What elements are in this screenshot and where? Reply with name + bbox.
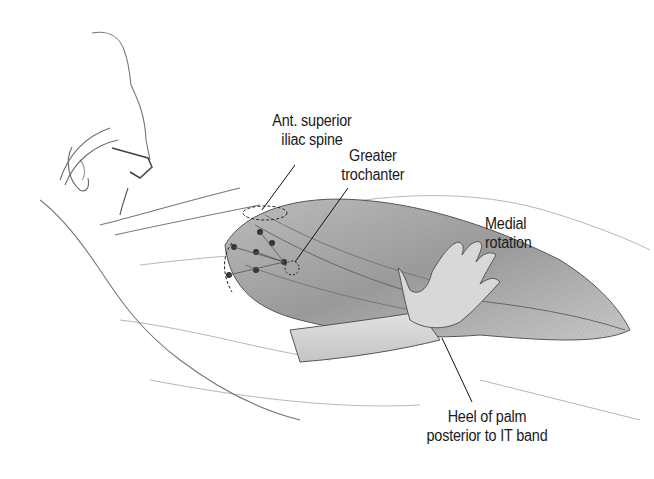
heel-leader-line bbox=[442, 338, 472, 402]
label-heel-of-palm: Heel of palm posterior to IT band bbox=[415, 407, 559, 445]
label-heel-line1: Heel of palm bbox=[415, 407, 559, 426]
label-asis-line1: Ant. superior bbox=[258, 111, 366, 130]
label-asis: Ant. superior iliac spine bbox=[258, 111, 366, 149]
label-rotation-line1: Medial bbox=[485, 214, 532, 233]
label-medial-rotation: Medial rotation bbox=[485, 214, 532, 252]
label-greater-trochanter: Greater trochanter bbox=[336, 146, 410, 184]
asis-leader-line bbox=[262, 165, 295, 210]
label-heel-line2: posterior to IT band bbox=[415, 426, 559, 445]
illustration-canvas: Ant. superior iliac spine Greater trocha… bbox=[0, 0, 654, 479]
label-trochanter-line2: trochanter bbox=[336, 165, 410, 184]
practitioner-head bbox=[60, 128, 152, 215]
label-rotation-line2: rotation bbox=[485, 233, 532, 252]
label-trochanter-line1: Greater bbox=[336, 146, 410, 165]
